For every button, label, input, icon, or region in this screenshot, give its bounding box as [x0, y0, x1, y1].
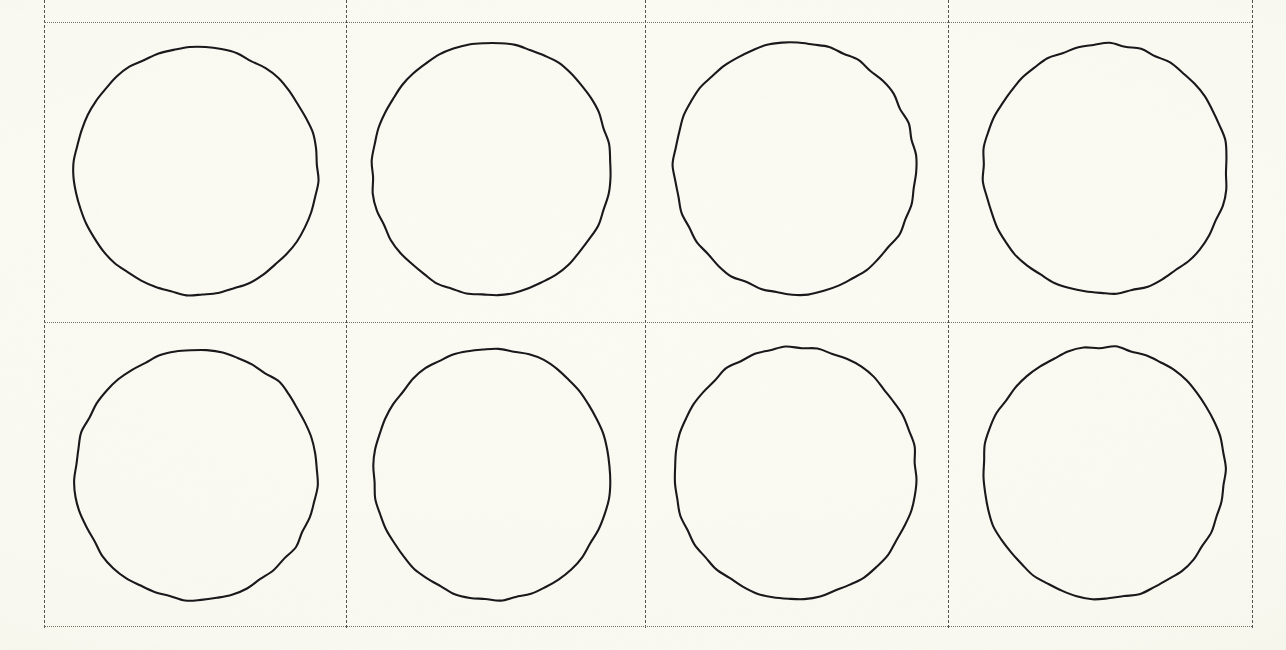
grid-line-vertical-2 — [346, 0, 347, 628]
circle-r2-c4-outline — [979, 342, 1230, 603]
circle-r1-c4-outline — [979, 39, 1232, 298]
circle-r2-c4 — [971, 335, 1237, 611]
circle-r1-c3-outline — [661, 30, 930, 308]
circle-r2-c2-outline — [365, 341, 618, 609]
circle-r2-c3 — [662, 335, 928, 611]
circle-r2-c1 — [63, 338, 329, 612]
circle-r1-c2 — [360, 30, 622, 308]
grid-line-vertical-3 — [645, 0, 646, 628]
grid-line-horizontal-2 — [44, 322, 1252, 323]
circle-r1-c1 — [62, 35, 330, 307]
grid-line-vertical-1 — [44, 0, 45, 628]
grid-line-vertical-4 — [948, 0, 949, 628]
circle-r1-c3 — [662, 30, 928, 306]
scanned-worksheet-page — [0, 0, 1286, 650]
circle-r1-c2-outline — [363, 35, 619, 303]
grid-line-vertical-5 — [1252, 0, 1253, 628]
circle-r1-c4 — [971, 32, 1239, 306]
circle-r2-c2 — [362, 336, 622, 612]
circle-r1-c1-outline — [67, 41, 324, 302]
circle-r2-c1-outline — [64, 340, 328, 612]
grid-line-horizontal-3 — [44, 626, 1252, 627]
circle-r2-c3-outline — [668, 341, 923, 605]
grid-line-horizontal-1 — [44, 22, 1252, 23]
